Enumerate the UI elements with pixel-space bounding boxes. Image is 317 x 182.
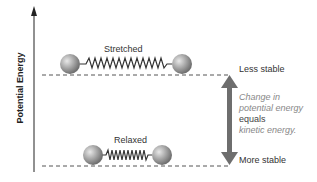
note-line: Change in: [239, 92, 303, 103]
y-axis: [31, 6, 37, 172]
atom-right: [152, 145, 172, 165]
relaxed-label: Relaxed: [114, 135, 147, 145]
relaxed-molecule: [83, 145, 172, 165]
stretched-label: Stretched: [104, 44, 143, 54]
energy-note: Change in potential energy equals kineti…: [239, 92, 303, 136]
atom-left: [60, 54, 80, 74]
note-line: kinetic energy.: [239, 125, 303, 136]
stretched-molecule: [60, 54, 192, 74]
note-line: potential energy: [239, 103, 303, 114]
less-stable-label: Less stable: [239, 64, 285, 74]
y-axis-label: Potential Energy: [15, 38, 25, 138]
arrow-up-icon: [31, 6, 37, 16]
atom-left: [83, 145, 103, 165]
note-line-emphasis: equals: [239, 114, 303, 125]
more-stable-label: More stable: [239, 155, 286, 165]
atom-right: [172, 54, 192, 74]
double-arrow-icon: [221, 75, 238, 165]
